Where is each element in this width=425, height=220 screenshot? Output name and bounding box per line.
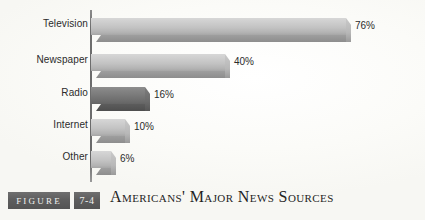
figure-tag-badge: FIGURE xyxy=(8,192,70,209)
value-label-internet: 10% xyxy=(134,121,154,132)
bar-shadow-other xyxy=(96,168,111,175)
figure-caption: FIGURE 7-4 Americans' Major News Sources xyxy=(0,186,425,220)
bar-cap-internet xyxy=(125,119,130,143)
bar-face-other xyxy=(91,151,111,168)
bar-face-internet xyxy=(91,119,125,136)
bar-cap-television xyxy=(346,18,351,42)
category-label-newspaper: Newspaper xyxy=(0,54,88,65)
figure-number-badge: 7-4 xyxy=(74,192,100,209)
bar-shadow-newspaper xyxy=(96,71,225,78)
value-label-television: 76% xyxy=(355,20,375,31)
figure-title: Americans' Major News Sources xyxy=(110,188,334,206)
category-label-internet: Internet xyxy=(0,119,88,130)
category-label-other: Other xyxy=(0,151,88,162)
bar-face-radio xyxy=(91,87,145,104)
bar-shadow-television xyxy=(96,35,346,42)
bar-newspaper[interactable] xyxy=(91,54,225,78)
bar-cap-newspaper xyxy=(225,54,230,78)
bar-chart-plot-area: Television 76% Newspaper 40% Radio xyxy=(0,0,425,186)
value-label-radio: 16% xyxy=(154,89,174,100)
bar-cap-radio xyxy=(145,87,150,111)
bar-television[interactable] xyxy=(91,18,346,42)
bar-face-newspaper xyxy=(91,54,225,71)
bar-other[interactable] xyxy=(91,151,111,175)
bar-cap-other xyxy=(111,151,116,175)
bar-internet[interactable] xyxy=(91,119,125,143)
category-label-television: Television xyxy=(0,18,88,29)
value-label-other: 6% xyxy=(120,153,134,164)
category-label-radio: Radio xyxy=(0,87,88,98)
bar-radio[interactable] xyxy=(91,87,145,111)
value-label-newspaper: 40% xyxy=(234,56,254,67)
bar-shadow-radio xyxy=(96,104,145,111)
bar-face-television xyxy=(91,18,346,35)
figure-container: Television 76% Newspaper 40% Radio xyxy=(0,0,425,220)
bar-shadow-internet xyxy=(96,136,125,143)
